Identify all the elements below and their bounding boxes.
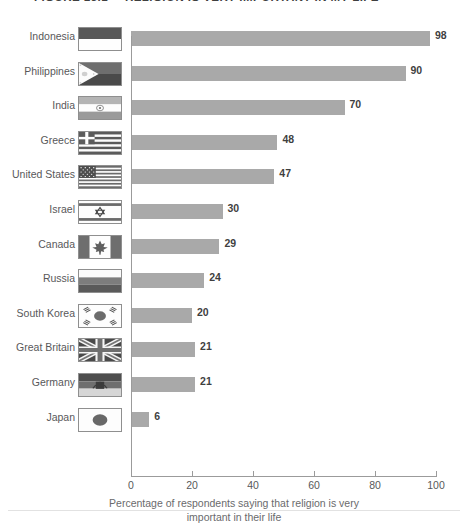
x-axis-caption-line2: important in their life [0, 511, 468, 524]
x-axis-tick-label: 60 [308, 479, 320, 491]
x-axis-caption-line1: Percentage of respondents saying that re… [0, 497, 468, 511]
flag-japan-icon [78, 408, 122, 432]
bar [131, 66, 406, 81]
bar [131, 169, 274, 184]
bar-value-label: 21 [200, 375, 212, 387]
x-axis-tick [436, 471, 437, 477]
chart-row: Great Britain21 [0, 333, 468, 368]
chart-row: Canada29 [0, 230, 468, 265]
flag-united-states-icon [78, 165, 122, 189]
chart-row: Japan6 [0, 403, 468, 438]
country-label: Great Britain [16, 341, 75, 353]
flag-south-korea-icon [78, 304, 122, 328]
flag-canada-icon [78, 235, 122, 259]
bar [131, 100, 345, 115]
bar-value-label: 70 [350, 98, 362, 110]
bar-value-label: 21 [200, 340, 212, 352]
bar [131, 342, 195, 357]
bar [131, 273, 204, 288]
figure-number: FIGURE 13.1 [34, 0, 108, 3]
bar-value-label: 90 [411, 64, 423, 76]
x-axis-tick-label: 0 [128, 479, 134, 491]
country-label: Germany [32, 376, 75, 388]
chart-row: South Korea20 [0, 299, 468, 334]
chart-row: Israel30 [0, 195, 468, 230]
x-axis-tick [192, 471, 193, 477]
chart-row: Russia24 [0, 264, 468, 299]
flag-israel-icon [78, 200, 122, 224]
country-label: Philippines [24, 65, 75, 77]
bar-value-label: 48 [282, 133, 294, 145]
x-axis-tick [375, 471, 376, 477]
flag-philippines-icon [78, 62, 122, 86]
country-label: South Korea [17, 307, 75, 319]
country-label: Russia [43, 272, 75, 284]
bar-value-label: 47 [279, 167, 291, 179]
bottom-divider [8, 510, 460, 511]
x-axis-tick-label: 20 [186, 479, 198, 491]
bar [131, 135, 277, 150]
country-label: Greece [41, 134, 75, 146]
country-label: Japan [46, 411, 75, 423]
x-axis-line [131, 476, 436, 477]
chart-row: Philippines90 [0, 57, 468, 92]
flag-great-britain-icon [78, 338, 122, 362]
bar-value-label: 6 [154, 410, 160, 422]
x-axis-tick-label: 40 [247, 479, 259, 491]
bar-chart: Indonesia98Philippines90India70Greece48U… [0, 18, 468, 458]
page-title: FIGURE 13.1RELIGION IS VERY IMPORTANT IN… [34, 0, 379, 3]
bar [131, 412, 149, 427]
country-label: United States [12, 168, 75, 180]
bar [131, 204, 223, 219]
bar [131, 308, 192, 323]
flag-india-icon [78, 96, 122, 120]
x-axis-tick [131, 471, 132, 477]
bar-value-label: 24 [209, 271, 221, 283]
bar-value-label: 20 [197, 306, 209, 318]
x-axis-tick-label: 80 [369, 479, 381, 491]
y-axis-line [131, 36, 132, 476]
country-label: Canada [38, 238, 75, 250]
country-label: Israel [49, 203, 75, 215]
x-axis-tick [314, 471, 315, 477]
flag-indonesia-icon [78, 27, 122, 51]
chart-row: Germany21 [0, 368, 468, 403]
x-axis-tick-label: 100 [427, 479, 445, 491]
bar-value-label: 30 [228, 202, 240, 214]
bar [131, 31, 430, 46]
chart-row: United States47 [0, 160, 468, 195]
country-label: India [52, 99, 75, 111]
flag-russia-icon [78, 269, 122, 293]
x-axis-tick [253, 471, 254, 477]
bar-value-label: 29 [224, 237, 236, 249]
bar-value-label: 98 [435, 29, 447, 41]
flag-germany-icon [78, 373, 122, 397]
bar [131, 377, 195, 392]
flag-greece-icon [78, 131, 122, 155]
chart-row: Greece48 [0, 126, 468, 161]
chart-row: Indonesia98 [0, 22, 468, 57]
figure-title-text: RELIGION IS VERY IMPORTANT IN MY LIFE [125, 0, 379, 3]
bar [131, 239, 219, 254]
chart-row: India70 [0, 91, 468, 126]
country-label: Indonesia [29, 30, 75, 42]
